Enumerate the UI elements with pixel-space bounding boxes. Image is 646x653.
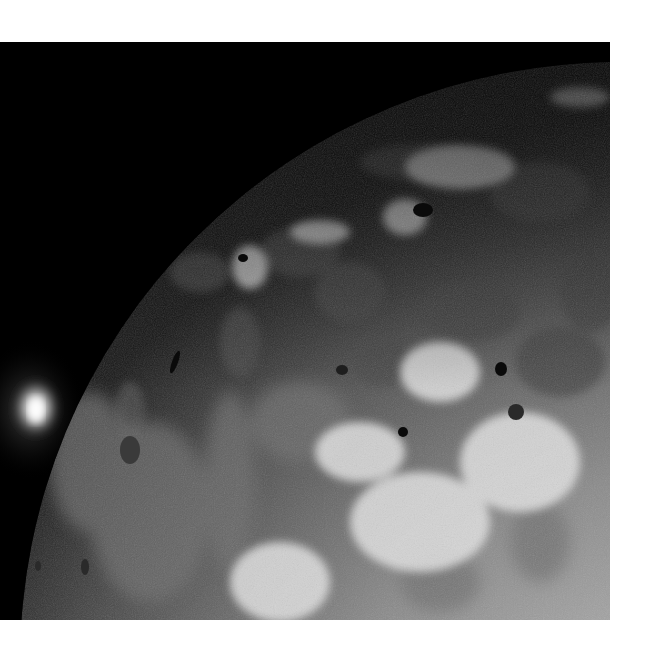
io-moon-image [0, 42, 610, 620]
io-photograph [0, 42, 610, 620]
page [0, 0, 646, 653]
plume-core [29, 398, 43, 422]
